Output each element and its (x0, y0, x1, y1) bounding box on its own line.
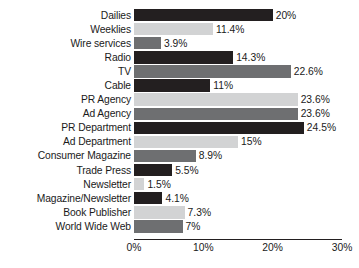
bar-area: 7.3% (134, 205, 359, 219)
category-label: Newsletter (0, 179, 131, 190)
category-label: PR Agency (0, 94, 131, 105)
category-label: PR Department (0, 122, 131, 133)
bar-area: 4.1% (134, 191, 359, 205)
bar-row: Book Publisher7.3% (0, 205, 359, 219)
bar-row: Newsletter1.5% (0, 177, 359, 191)
bar-row: Dailies20% (0, 8, 359, 22)
bar-row: Ad Department15% (0, 135, 359, 149)
bar-value-label: 4.1% (165, 193, 188, 204)
bar-value-label: 1.5% (147, 179, 170, 190)
bar-value-label: 24.5% (307, 122, 336, 133)
category-label: TV (0, 66, 131, 77)
bar (134, 192, 162, 204)
bar-value-label: 14.3% (236, 52, 265, 63)
category-label: Ad Department (0, 136, 131, 147)
bar-row: World Wide Web7% (0, 219, 359, 233)
bar-value-label: 3.9% (164, 38, 187, 49)
bar-area: 7% (134, 219, 359, 233)
bar-value-label: 7.3% (188, 207, 211, 218)
bar-row: TV22.6% (0, 64, 359, 78)
bar (134, 136, 238, 148)
bar-area: 15% (134, 135, 359, 149)
bar-row: PR Agency23.6% (0, 93, 359, 107)
bar-value-label: 5.5% (175, 165, 198, 176)
bar-area: 1.5% (134, 177, 359, 191)
bar-row: Wire services3.9% (0, 36, 359, 50)
bar (134, 93, 298, 105)
bar (134, 220, 183, 232)
bar-row: Cable11% (0, 78, 359, 92)
bar-area: 11.4% (134, 22, 359, 36)
bar (134, 23, 213, 35)
bar (134, 178, 144, 190)
bar (134, 108, 298, 120)
category-label: Weeklies (0, 24, 131, 35)
category-label: Consumer Magazine (0, 150, 131, 161)
bar (134, 65, 291, 77)
category-label: Book Publisher (0, 207, 131, 218)
bar (134, 122, 304, 134)
bar-row: Weeklies11.4% (0, 22, 359, 36)
bar-value-label: 7% (186, 221, 201, 232)
bar-row: Trade Press5.5% (0, 163, 359, 177)
bar-value-label: 11.4% (216, 24, 244, 35)
bar-row: Radio14.3% (0, 50, 359, 64)
bar (134, 51, 233, 63)
bar (134, 150, 196, 162)
bar-area: 23.6% (134, 93, 359, 107)
bar-row: Magazine/Newsletter4.1% (0, 191, 359, 205)
x-tick-label: 20% (262, 242, 283, 254)
bar-area: 5.5% (134, 163, 359, 177)
bar-area: 14.3% (134, 50, 359, 64)
category-label: Wire services (0, 38, 131, 49)
bar-area: 24.5% (134, 121, 359, 135)
bar (134, 164, 172, 176)
bar-row: Consumer Magazine8.9% (0, 149, 359, 163)
bar (134, 37, 161, 49)
bar-area: 20% (134, 8, 359, 22)
bar-rows: Dailies20%Weeklies11.4%Wire services3.9%… (0, 8, 359, 234)
bar-area: 11% (134, 78, 359, 92)
category-label: Radio (0, 52, 131, 63)
bar-area: 8.9% (134, 149, 359, 163)
bar-value-label: 20% (276, 10, 297, 21)
bar-row: PR Department24.5% (0, 121, 359, 135)
bar (134, 9, 273, 21)
category-label: Trade Press (0, 165, 131, 176)
bar-value-label: 23.6% (301, 94, 330, 105)
x-tick-label: 0% (127, 242, 142, 254)
bar (134, 79, 210, 91)
bar-value-label: 22.6% (294, 66, 323, 77)
x-axis-line (134, 239, 342, 240)
category-label: Cable (0, 80, 131, 91)
bar-area: 22.6% (134, 64, 359, 78)
bar-area: 23.6% (134, 107, 359, 121)
category-label: World Wide Web (0, 221, 131, 232)
x-tick-label: 10% (193, 242, 214, 254)
bar-value-label: 23.6% (301, 108, 330, 119)
category-label: Ad Agency (0, 108, 131, 119)
bar-chart: Dailies20%Weeklies11.4%Wire services3.9%… (0, 0, 359, 268)
bar-value-label: 11% (213, 80, 233, 91)
bar-row: Ad Agency23.6% (0, 107, 359, 121)
bar (134, 206, 185, 218)
x-axis-ticks: 0%10%20%30% (0, 242, 359, 256)
bar-value-label: 8.9% (199, 150, 222, 161)
bar-value-label: 15% (241, 136, 262, 147)
x-tick-label: 30% (332, 242, 353, 254)
category-label: Magazine/Newsletter (0, 193, 131, 204)
category-label: Dailies (0, 10, 131, 21)
bar-area: 3.9% (134, 36, 359, 50)
